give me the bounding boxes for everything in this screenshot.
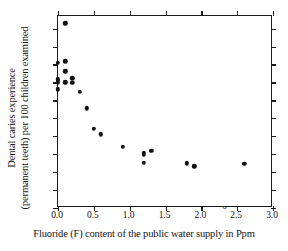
y-axis-tick <box>53 136 58 137</box>
x-axis-tick <box>201 206 202 211</box>
x-axis-tick-label: 1.5 <box>159 211 171 221</box>
data-point <box>142 161 146 165</box>
y-axis-tick <box>53 100 58 101</box>
x-axis-tick-label: 0.5 <box>87 211 99 221</box>
x-axis-tick-top <box>94 11 95 16</box>
x-axis-tick-label: 1.0 <box>123 211 135 221</box>
y-axis-tick-right <box>271 154 276 155</box>
y-axis-title-line2: (permanent teeth) per 100 children exami… <box>18 8 31 228</box>
data-point <box>63 21 67 25</box>
plot-area <box>57 15 272 207</box>
x-axis-tick-top <box>130 11 131 16</box>
x-axis-tick <box>94 206 95 211</box>
data-point <box>120 144 124 148</box>
data-point <box>77 90 81 94</box>
x-axis-tick <box>166 206 167 211</box>
y-axis-tick-right <box>271 190 276 191</box>
y-axis-tick-right <box>271 47 276 48</box>
data-point <box>84 106 88 110</box>
y-axis-tick-right <box>271 118 276 119</box>
x-axis-tick <box>58 206 59 211</box>
data-point <box>56 80 60 84</box>
data-point <box>70 81 74 85</box>
y-axis-tick <box>53 47 58 48</box>
y-axis-tick <box>53 154 58 155</box>
data-point <box>56 87 60 91</box>
x-axis-tick-label: 0.0 <box>51 211 63 221</box>
x-axis-tick-top <box>58 11 59 16</box>
y-axis-tick-right <box>271 82 276 83</box>
x-axis-title: Fluoride (F) content of the public water… <box>0 228 288 240</box>
data-point <box>149 148 153 152</box>
y-axis-tick-right <box>271 29 276 30</box>
x-axis-tick <box>237 206 238 211</box>
x-axis-tick-top <box>237 11 238 16</box>
x-axis-tick-top <box>201 11 202 16</box>
data-point <box>142 152 146 156</box>
y-axis-tick <box>53 190 58 191</box>
x-axis-tick-top <box>166 11 167 16</box>
data-point <box>242 162 246 166</box>
data-point <box>92 126 96 130</box>
chart-figure: 01002003004005006007008009001000 0.00.51… <box>0 0 288 251</box>
x-axis-tick-top <box>273 11 274 16</box>
x-axis-tick <box>273 206 274 211</box>
y-axis-tick-right <box>271 136 276 137</box>
data-point <box>99 132 103 136</box>
data-point <box>192 164 196 168</box>
x-axis-tick-label: 3.0 <box>266 211 278 221</box>
y-axis-tick-right <box>271 172 276 173</box>
x-axis-tick-label: 2.0 <box>195 211 207 221</box>
y-axis-tick-right <box>271 64 276 65</box>
data-point <box>63 80 67 84</box>
y-axis-tick <box>53 118 58 119</box>
y-axis-title: Dental caries experience (permanent teet… <box>5 8 31 228</box>
y-axis-tick-right <box>271 100 276 101</box>
data-point <box>56 61 60 65</box>
y-axis-tick <box>53 29 58 30</box>
data-point <box>185 161 189 165</box>
data-point <box>63 69 67 73</box>
data-point <box>63 59 67 63</box>
y-axis-tick <box>53 172 58 173</box>
x-axis-tick <box>130 206 131 211</box>
y-axis-title-line1: Dental caries experience <box>5 8 18 228</box>
x-axis-tick-label: 2.5 <box>230 211 242 221</box>
